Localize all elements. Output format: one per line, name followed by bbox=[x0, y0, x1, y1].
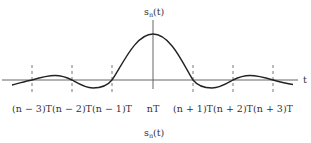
tick-label: (n − 1)T bbox=[92, 103, 133, 114]
tick-label: (n + 2)T bbox=[213, 103, 254, 114]
tick-label: nT bbox=[147, 103, 160, 114]
tick-label: (n + 3)T bbox=[253, 103, 294, 114]
time-axis-label: t bbox=[303, 74, 307, 85]
signal-label: sn(t) bbox=[144, 6, 164, 19]
figure-caption: sn(t) bbox=[144, 127, 164, 140]
tick-label: (n + 1)T bbox=[173, 103, 214, 114]
tick-label: (n − 3)T bbox=[12, 103, 53, 114]
tick-label: (n − 2)T bbox=[52, 103, 93, 114]
sinc-pulse-diagram: sn(t) t (n − 3)T (n − 2)T (n − 1)T nT (n… bbox=[0, 0, 311, 143]
